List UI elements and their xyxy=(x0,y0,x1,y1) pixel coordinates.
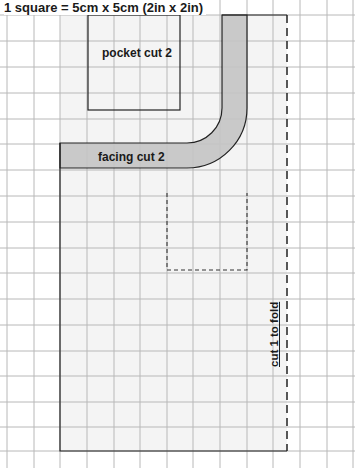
fold-label: cut 1 to fold xyxy=(268,302,280,367)
scale-title: 1 square = 5cm x 5cm (2in x 2in) xyxy=(4,0,206,15)
pattern-svg xyxy=(0,0,355,468)
pocket-label: pocket cut 2 xyxy=(102,46,172,60)
pattern-diagram: 1 square = 5cm x 5cm (2in x 2in) pocket … xyxy=(0,0,355,468)
main-piece-fill xyxy=(60,15,287,451)
facing-label: facing cut 2 xyxy=(98,150,165,164)
